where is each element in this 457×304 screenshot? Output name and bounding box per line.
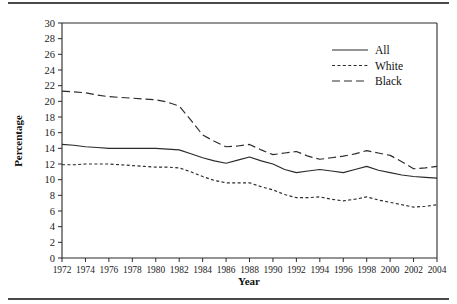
y-tick-label: 18 [45, 112, 56, 123]
y-tick-label: 14 [45, 143, 56, 154]
x-axis-title: Year [238, 275, 260, 287]
series-line-all [62, 144, 437, 178]
y-tick-label: 2 [50, 237, 55, 248]
x-tick-label: 1986 [217, 265, 236, 275]
x-tick-label: 1982 [170, 265, 189, 275]
x-tick-label: 1990 [264, 265, 283, 275]
y-tick-label: 20 [45, 96, 56, 107]
x-tick-label: 1984 [193, 265, 212, 275]
y-tick-label: 16 [45, 127, 56, 138]
y-tick-label: 26 [45, 49, 56, 60]
x-tick-label: 1996 [334, 265, 353, 275]
y-tick-label: 12 [45, 159, 56, 170]
y-axis-title: Percentage [12, 115, 24, 167]
y-tick-label: 28 [45, 33, 56, 44]
y-tick-label: 0 [50, 253, 55, 264]
legend-label-all: All [375, 44, 390, 56]
series-group [62, 91, 437, 207]
x-tick-label: 1980 [146, 265, 165, 275]
y-tick-label: 6 [50, 206, 55, 217]
legend-label-black: Black [375, 75, 402, 87]
y-tick-label: 8 [50, 190, 55, 201]
y-tick-label: 22 [45, 80, 56, 91]
x-tick-label: 2000 [381, 265, 400, 275]
y-axis-ticks: 024681012141618202224262830 [45, 18, 63, 264]
x-tick-label: 1978 [123, 265, 142, 275]
line-chart: Percentage Year 024681012141618202224262… [0, 0, 457, 290]
x-tick-label: 1988 [240, 265, 259, 275]
x-axis-ticks: 1972197419761978198019821984198619881990… [53, 258, 447, 275]
y-tick-label: 30 [45, 18, 56, 29]
x-tick-label: 1998 [357, 265, 376, 275]
x-tick-label: 2002 [404, 265, 423, 275]
x-tick-label: 1974 [76, 265, 95, 275]
bottom-page-rule [8, 298, 449, 300]
chart-svg: Percentage Year 024681012141618202224262… [0, 0, 457, 290]
plot-frame [62, 23, 437, 258]
x-tick-label: 1994 [310, 265, 329, 275]
legend-label-white: White [375, 60, 403, 72]
x-tick-label: 1992 [287, 265, 306, 275]
x-tick-label: 2004 [428, 265, 447, 275]
figure-root: Percentage Year 024681012141618202224262… [0, 0, 457, 304]
x-tick-label: 1972 [53, 265, 72, 275]
y-tick-label: 4 [50, 221, 56, 232]
y-tick-label: 10 [45, 174, 56, 185]
x-tick-label: 1976 [100, 265, 119, 275]
chart-legend: AllWhiteBlack [332, 44, 403, 87]
y-tick-label: 24 [45, 65, 56, 76]
